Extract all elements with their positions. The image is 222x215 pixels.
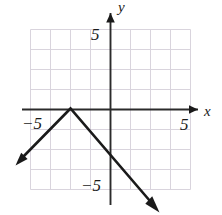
graph-figure: −5 5 5 −5 x y [0, 0, 222, 215]
y-axis-tick-label-neg-five: −5 [81, 176, 101, 195]
coordinate-plane-svg: −5 5 5 −5 x y [0, 0, 222, 215]
x-axis-name-label: x [203, 103, 211, 119]
x-axis-tick-label-pos-five: 5 [180, 115, 189, 134]
x-axis-tick-label-neg-five: −5 [22, 114, 42, 133]
y-axis-name-label: y [116, 0, 125, 15]
y-axis-tick-label-pos-five: 5 [91, 25, 100, 44]
